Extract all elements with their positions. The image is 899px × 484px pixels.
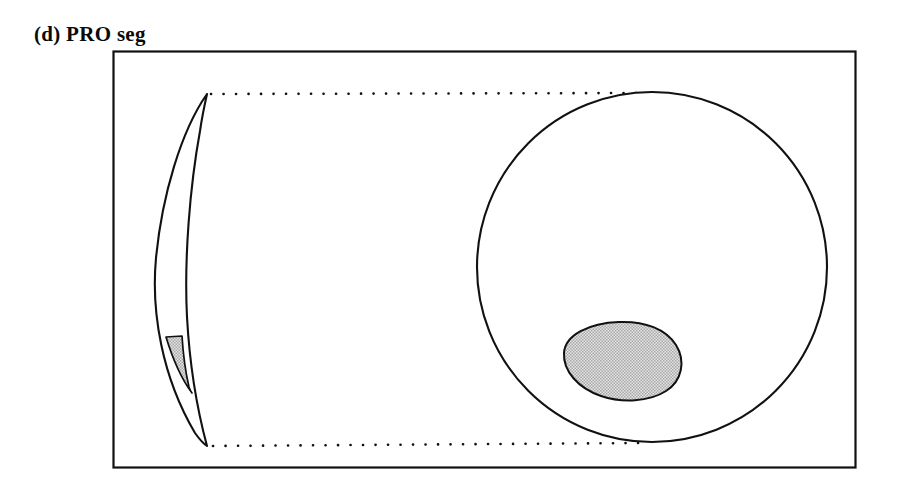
- figure-panel: (d) PRO seg: [0, 0, 899, 484]
- figure-canvas: [0, 0, 899, 484]
- crescent-blade: [155, 94, 207, 446]
- dotted-tangent-line-bottom: [213, 443, 641, 446]
- dotted-tangent-line-top: [211, 93, 640, 94]
